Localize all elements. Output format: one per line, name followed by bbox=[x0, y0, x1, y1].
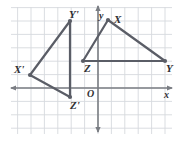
point-label-Y: Y bbox=[166, 63, 173, 74]
point-label-X: X bbox=[114, 14, 121, 25]
point-label-X-prime: X' bbox=[14, 64, 24, 75]
vertex-dot-Xp bbox=[28, 73, 32, 77]
figure-canvas: X Y Z X' Y' Z' O x y bbox=[0, 0, 181, 143]
x-axis-label: x bbox=[164, 90, 169, 100]
origin-label: O bbox=[87, 89, 94, 99]
y-axis-label: y bbox=[99, 11, 103, 21]
point-label-Z-prime: Z' bbox=[70, 100, 80, 111]
point-label-Y-prime: Y' bbox=[69, 9, 79, 20]
vertex-dot-X bbox=[106, 18, 110, 22]
point-label-Z: Z bbox=[84, 63, 91, 74]
